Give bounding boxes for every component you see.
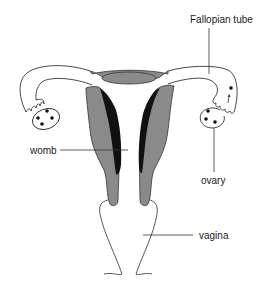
- label-fallopian-tube: Fallopian tube: [190, 14, 253, 25]
- label-womb: womb: [29, 145, 57, 156]
- egg-icon: [229, 86, 233, 90]
- label-ovary: ovary: [201, 175, 225, 186]
- reproductive-system-diagram: Fallopian tube womb ovary vagina: [0, 0, 266, 296]
- vagina-outline: [100, 200, 158, 275]
- ovary-left: [29, 105, 62, 133]
- arrow-icon: [228, 96, 229, 103]
- leader-lines: [60, 28, 214, 235]
- label-vagina: vagina: [199, 230, 229, 241]
- fundus-ellipse: [102, 72, 156, 84]
- womb: [86, 85, 174, 205]
- ovary-right: [200, 86, 233, 128]
